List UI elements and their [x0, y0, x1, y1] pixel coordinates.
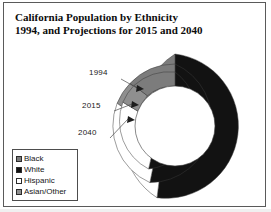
legend-swatch-white: [16, 167, 22, 173]
legend-item-white: White: [16, 164, 74, 175]
chart-title: California Population by Ethnicity 1994,…: [15, 11, 230, 36]
chart-legend: Black White Hispanic Asian/Other: [12, 149, 78, 201]
legend-label-black: Black: [24, 154, 44, 163]
legend-label-hispanic: Hispanic: [24, 176, 55, 185]
title-line-1: California Population by Ethnicity: [15, 11, 230, 24]
legend-swatch-black: [16, 156, 22, 162]
legend-item-black: Black: [16, 153, 74, 164]
legend-label-white: White: [24, 165, 44, 174]
legend-label-asian-other: Asian/Other: [24, 187, 66, 196]
rings-group: [113, 54, 239, 198]
donut-chart: [59, 39, 267, 209]
legend-item-asian-other: Asian/Other: [16, 186, 74, 197]
concentric-ring-graphic: [59, 39, 267, 209]
legend-swatch-asian-other: [16, 189, 22, 195]
page-frame: California Population by Ethnicity 1994,…: [3, 2, 266, 207]
callout-label-2015: 2015: [82, 101, 101, 110]
title-line-2: 1994, and Projections for 2015 and 2040: [15, 24, 230, 37]
scan-edge-artifact: [0, 209, 271, 212]
donut-hole: [135, 86, 215, 166]
chart-screenshot: California Population by Ethnicity 1994,…: [0, 0, 271, 212]
legend-item-hispanic: Hispanic: [16, 175, 74, 186]
callout-label-1994: 1994: [89, 68, 108, 77]
legend-swatch-hispanic: [16, 178, 22, 184]
callout-label-2040: 2040: [78, 128, 97, 137]
